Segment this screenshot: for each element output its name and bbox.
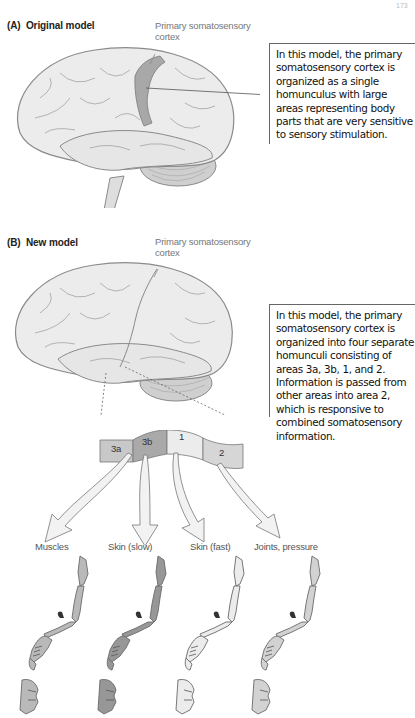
- projection-arrows: [0, 450, 415, 545]
- area-1-label: 1: [179, 431, 184, 442]
- arrow-to-joints: [217, 463, 280, 538]
- homunculus-muscles: [20, 556, 88, 714]
- homunculus-skin-slow: [98, 556, 166, 714]
- panel-b-description: In this model, the primary somatosensory…: [269, 305, 415, 417]
- panel-a-description: In this model, the primary somatosensory…: [269, 44, 415, 144]
- homunculus-label-joints-pressure: Joints, pressure: [254, 541, 318, 552]
- area-3b-label: 3b: [142, 436, 152, 447]
- panel-b-brain-illustration: [0, 255, 260, 415]
- panel-b-callout-line1: Primary somatosensory: [155, 236, 251, 247]
- homunculus-label-skin-slow: Skin (slow): [108, 541, 152, 552]
- panel-a-brain-illustration: [0, 38, 260, 208]
- homunculus-skin-fast: [176, 556, 244, 714]
- page-number: 173: [396, 2, 408, 9]
- brain-icon: [0, 38, 260, 208]
- homunculus-label-muscles: Muscles: [35, 541, 68, 552]
- panel-a-callout-line1: Primary somatosensory: [155, 20, 251, 31]
- arrow-to-skin-slow: [132, 455, 158, 545]
- panel-b-title: (B) New model: [7, 237, 78, 248]
- arrow-to-skin-fast: [173, 453, 204, 542]
- panel-a-title: (A) Original model: [7, 20, 95, 31]
- homunculi-row: [0, 552, 415, 718]
- homunculus-label-skin-fast: Skin (fast): [190, 541, 231, 552]
- arrow-to-muscles: [45, 453, 132, 542]
- brain-icon: [0, 255, 260, 415]
- homunculus-joints-pressure: [252, 556, 320, 714]
